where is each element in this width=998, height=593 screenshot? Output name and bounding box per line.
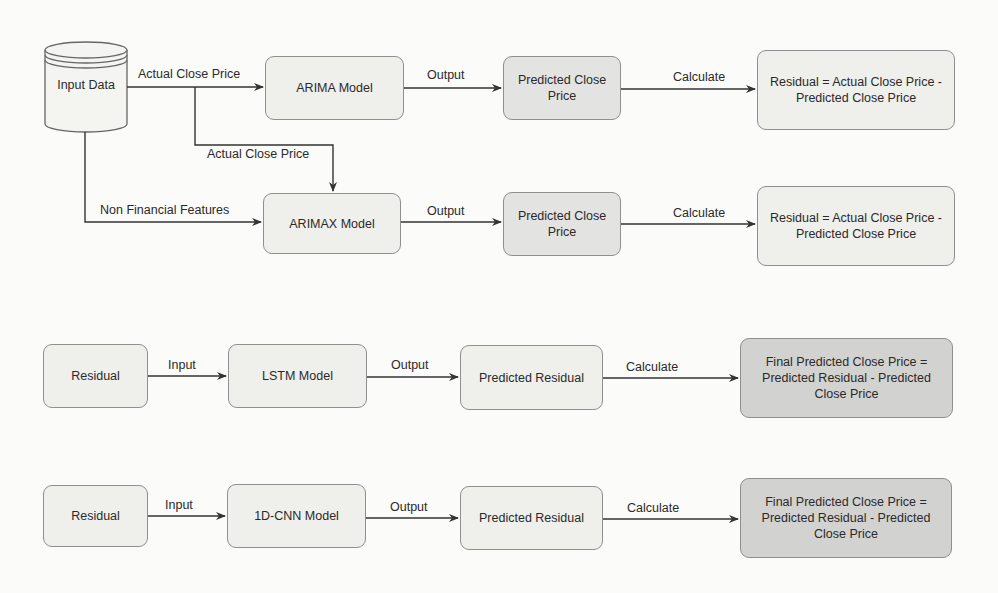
residual-formula-node: Residual = Actual Close Price - Predicte…	[757, 186, 955, 266]
edge-label-calculate: Calculate	[673, 206, 725, 220]
arima-model-node: ARIMA Model	[265, 56, 404, 120]
input-data-label: Input Data	[45, 78, 127, 92]
edge-label-actual-close-price-arimax: Actual Close Price	[207, 147, 309, 161]
residual-formula-node: Residual = Actual Close Price - Predicte…	[757, 50, 955, 130]
predicted-residual-node: Predicted Residual	[460, 486, 603, 550]
arimax-model-node: ARIMAX Model	[263, 193, 401, 254]
edge-label-actual-close-price: Actual Close Price	[138, 67, 240, 81]
final-predicted-close-price-node: Final Predicted Close Price = Predicted …	[740, 338, 953, 418]
edge-label-output: Output	[427, 204, 465, 218]
edge-label-non-financial-features: Non Financial Features	[100, 203, 229, 217]
edge-label-input: Input	[165, 498, 193, 512]
edge-label-output: Output	[427, 68, 465, 82]
edge-label-calculate: Calculate	[626, 360, 678, 374]
predicted-residual-node: Predicted Residual	[460, 345, 603, 410]
predicted-close-price-node: Predicted Close Price	[503, 56, 621, 120]
residual-source-node: Residual	[43, 485, 148, 547]
edge-label-calculate: Calculate	[673, 70, 725, 84]
residual-source-node: Residual	[43, 344, 148, 408]
edge-label-output: Output	[391, 358, 429, 372]
cnn-model-node: 1D-CNN Model	[227, 484, 366, 548]
edge-label-calculate: Calculate	[627, 501, 679, 515]
final-predicted-close-price-node: Final Predicted Close Price = Predicted …	[740, 478, 952, 558]
predicted-close-price-node: Predicted Close Price	[503, 192, 621, 256]
edge-label-output: Output	[390, 500, 428, 514]
edge-label-input: Input	[168, 358, 196, 372]
lstm-model-node: LSTM Model	[228, 344, 367, 408]
